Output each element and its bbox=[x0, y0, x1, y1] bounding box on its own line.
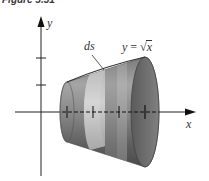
curve-equation-label: y = √x bbox=[122, 40, 152, 53]
ds-leader-line bbox=[92, 55, 104, 70]
y-axis-arrow-icon bbox=[38, 16, 45, 27]
curve-lhs: y bbox=[122, 40, 127, 54]
ds-label: ds bbox=[84, 40, 95, 52]
curve-arg: x bbox=[146, 40, 152, 53]
curve-equals: = bbox=[130, 40, 137, 54]
y-axis-label: y bbox=[47, 17, 52, 29]
x-axis-arrow-icon bbox=[185, 109, 196, 116]
surface-body bbox=[60, 40, 159, 180]
surface-of-revolution-diagram bbox=[0, 0, 209, 181]
y-axis bbox=[36, 16, 46, 176]
figure-5-31: Figure 5.31 bbox=[0, 0, 209, 181]
x-axis-label: x bbox=[186, 118, 191, 130]
